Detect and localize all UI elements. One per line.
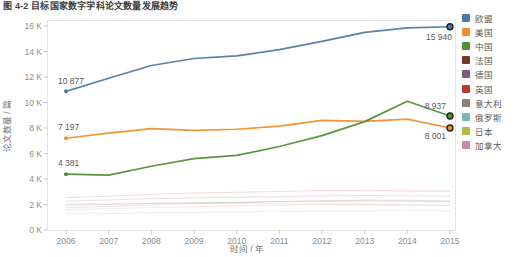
series-point-usa — [64, 136, 68, 140]
series-point-usa — [447, 125, 453, 131]
x-tick-label: 2008 — [142, 236, 161, 246]
legend-label-germany: 德国 — [475, 68, 493, 80]
legend-item-italy[interactable]: 意大利 — [462, 96, 518, 110]
legend-item-russia[interactable]: 俄罗斯 — [462, 110, 518, 124]
legend-item-china[interactable]: 中国 — [462, 39, 518, 53]
legend-swatch-russia — [462, 113, 470, 121]
legend-swatch-uk — [462, 85, 470, 93]
legend-swatch-france — [462, 56, 470, 64]
legend-swatch-germany — [462, 70, 470, 78]
legend-label-eu: 欧盟 — [475, 12, 493, 24]
legend-label-italy: 意大利 — [475, 97, 502, 109]
y-tick-label: 16 K — [25, 21, 43, 31]
y-tick-label: 0 K — [29, 225, 42, 235]
y-tick-label: 6 K — [29, 149, 42, 159]
legend-swatch-eu — [462, 14, 470, 22]
x-tick-label: 2009 — [185, 236, 204, 246]
y-tick-label: 14 K — [25, 47, 43, 57]
x-axis-title: 时间 / 年 — [230, 244, 264, 254]
x-tick-label: 2013 — [355, 236, 374, 246]
legend-label-france: 法国 — [475, 54, 493, 66]
x-tick-label: 2006 — [57, 236, 76, 246]
data-label-china: 8 937 — [425, 101, 447, 111]
y-axis-title: 论文数量 / 篇 — [2, 100, 12, 152]
data-label-eu: 15 940 — [426, 32, 452, 42]
x-tick-label: 2007 — [99, 236, 118, 246]
y-tick-label: 10 K — [25, 98, 43, 108]
legend-label-china: 中国 — [475, 40, 493, 52]
y-tick-label: 4 K — [29, 174, 42, 184]
legend-item-eu[interactable]: 欧盟 — [462, 11, 518, 25]
y-tick-label: 2 K — [29, 200, 42, 210]
x-tick-label: 2014 — [398, 236, 417, 246]
legend-item-japan[interactable]: 日本 — [462, 124, 518, 138]
data-label-usa: 7 197 — [58, 122, 80, 132]
legend-item-canada[interactable]: 加拿大 — [462, 138, 518, 152]
chart-figure: 图 4-2 目标国家数字学科论文数量发展趋势 0 K2 K4 K6 K8 K10… — [0, 0, 519, 257]
series-point-eu — [447, 24, 453, 30]
legend-swatch-canada — [462, 141, 470, 149]
data-label-eu: 10 877 — [58, 76, 84, 86]
line-chart-plot: 0 K2 K4 K6 K8 K10 K12 K14 K16 K200620072… — [0, 0, 519, 257]
legend-swatch-japan — [462, 127, 470, 135]
legend-swatch-china — [462, 42, 470, 50]
legend-swatch-usa — [462, 28, 470, 36]
legend-label-canada: 加拿大 — [475, 139, 502, 151]
x-tick-label: 2012 — [313, 236, 332, 246]
plot-frame — [48, 21, 456, 231]
x-tick-label: 2011 — [270, 236, 289, 246]
y-tick-label: 8 K — [29, 123, 42, 133]
y-tick-label: 12 K — [25, 72, 43, 82]
data-label-china: 4 381 — [58, 158, 80, 168]
legend-label-uk: 英国 — [475, 83, 493, 95]
x-tick-label: 2015 — [441, 236, 460, 246]
legend-label-russia: 俄罗斯 — [475, 111, 502, 123]
series-point-eu — [64, 89, 68, 93]
legend-item-uk[interactable]: 英国 — [462, 81, 518, 95]
series-point-china — [447, 113, 453, 119]
data-label-usa: 8 001 — [425, 131, 447, 141]
legend-item-germany[interactable]: 德国 — [462, 67, 518, 81]
legend-item-france[interactable]: 法国 — [462, 53, 518, 67]
chart-legend: 欧盟美国中国法国德国英国意大利俄罗斯日本加拿大 — [462, 11, 518, 152]
legend-label-japan: 日本 — [475, 125, 493, 137]
legend-swatch-italy — [462, 99, 470, 107]
legend-label-usa: 美国 — [475, 26, 493, 38]
legend-item-usa[interactable]: 美国 — [462, 25, 518, 39]
series-point-china — [64, 172, 68, 176]
